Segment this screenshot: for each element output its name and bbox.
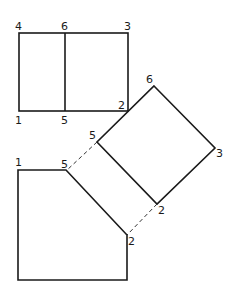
label-rect-5: 5: [61, 114, 68, 127]
dashed-connector-5: [66, 142, 97, 171]
label-rect-2: 2: [118, 99, 125, 112]
pentagon: 1 5 2: [15, 156, 135, 280]
square-outline: [97, 86, 215, 204]
top-rectangle: 4 6 3 1 5 2: [15, 20, 131, 127]
label-square-3: 3: [216, 147, 223, 160]
label-square-2: 2: [158, 204, 165, 217]
label-rect-4: 4: [15, 20, 22, 33]
label-pent-1: 1: [15, 156, 22, 169]
pentagon-outline: [18, 170, 127, 280]
label-rect-3: 3: [124, 20, 131, 33]
label-pent-2: 2: [128, 235, 135, 248]
rotated-square: 6 3 2 5: [89, 73, 223, 217]
label-pent-5: 5: [61, 158, 68, 171]
label-rect-6: 6: [61, 20, 68, 33]
dashed-connector-2: [127, 204, 157, 235]
fold-diagram: 4 6 3 1 5 2 6 3 2 5 1 5 2: [0, 0, 237, 298]
label-square-5: 5: [89, 129, 96, 142]
rectangle-outline: [19, 33, 128, 111]
label-square-6: 6: [146, 73, 153, 86]
label-rect-1: 1: [15, 114, 22, 127]
